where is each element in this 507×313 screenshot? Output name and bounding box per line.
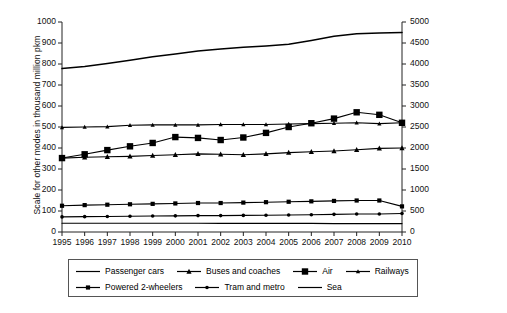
series-line-air xyxy=(62,112,402,158)
series-line-railways xyxy=(62,123,402,128)
series-marker-air xyxy=(376,112,382,118)
series-marker-air xyxy=(59,155,65,161)
series-marker-air xyxy=(263,130,269,136)
y-axis-right-tick: 1500 xyxy=(410,163,442,173)
series-marker-air xyxy=(172,134,178,140)
legend-row-primary: Passenger carsBuses and coachesAirRailwa… xyxy=(75,263,411,279)
legend-key-icon xyxy=(292,267,318,276)
series-marker-tram-and-metro xyxy=(219,214,223,218)
series-marker-tram-and-metro xyxy=(83,215,87,219)
series-marker-air xyxy=(127,143,133,149)
series-marker-air xyxy=(195,135,201,141)
chart-figure: Scale for other modes in thousand millio… xyxy=(0,0,507,313)
legend-key-icon xyxy=(75,267,101,276)
series-marker-powered-2-wheelers xyxy=(332,199,336,203)
y-axis-right-tick: 0 xyxy=(410,226,442,236)
legend-key-icon xyxy=(75,283,101,292)
y-axis-right-tick: 2500 xyxy=(410,121,442,131)
series-marker-tram-and-metro xyxy=(128,214,132,218)
series-marker-powered-2-wheelers xyxy=(287,200,291,204)
series-marker-powered-2-wheelers xyxy=(151,202,155,206)
legend-marker xyxy=(302,268,308,274)
legend-label: Air xyxy=(322,266,332,276)
y-axis-right-tick: 2000 xyxy=(410,142,442,152)
series-marker-powered-2-wheelers xyxy=(241,201,245,205)
legend-marker xyxy=(86,285,90,289)
series-marker-powered-2-wheelers xyxy=(309,199,313,203)
series-marker-tram-and-metro xyxy=(355,212,359,216)
chart-legend: Passenger carsBuses and coachesAirRailwa… xyxy=(68,259,418,297)
legend-label: Sea xyxy=(327,282,342,292)
series-marker-powered-2-wheelers xyxy=(264,200,268,204)
series-marker-tram-and-metro xyxy=(332,213,336,217)
series-marker-air xyxy=(240,134,246,140)
series-marker-air xyxy=(104,147,110,153)
legend-label: Tram and metro xyxy=(224,282,284,292)
series-marker-powered-2-wheelers xyxy=(219,201,223,205)
series-marker-tram-and-metro xyxy=(196,214,200,218)
legend-marker xyxy=(206,285,210,289)
series-line-powered-2-wheelers xyxy=(62,201,402,207)
series-marker-tram-and-metro xyxy=(151,214,155,218)
y-axis-right-tick: 1000 xyxy=(410,184,442,194)
legend-key-icon xyxy=(194,283,220,292)
legend-item[interactable]: Passenger cars xyxy=(75,266,164,276)
series-marker-air xyxy=(81,151,87,157)
legend-key-icon xyxy=(345,267,371,276)
legend-item[interactable]: Buses and coaches xyxy=(176,266,280,276)
series-marker-tram-and-metro xyxy=(242,214,246,218)
series-marker-powered-2-wheelers xyxy=(60,204,64,208)
series-marker-tram-and-metro xyxy=(174,214,178,218)
y-axis-right-tick: 4500 xyxy=(410,37,442,47)
legend-item[interactable]: Powered 2-wheelers xyxy=(75,282,182,292)
series-marker-air xyxy=(353,109,359,115)
series-marker-powered-2-wheelers xyxy=(377,198,381,202)
series-marker-air xyxy=(217,137,223,143)
series-marker-tram-and-metro xyxy=(60,215,64,219)
series-line-passenger-cars xyxy=(62,33,402,69)
y-axis-right-tick: 500 xyxy=(410,205,442,215)
series-marker-powered-2-wheelers xyxy=(83,203,87,207)
series-marker-tram-and-metro xyxy=(400,212,404,216)
series-marker-air xyxy=(149,140,155,146)
series-marker-powered-2-wheelers xyxy=(355,198,359,202)
legend-item[interactable]: Railways xyxy=(345,266,409,276)
y-axis-right-tick: 4000 xyxy=(410,58,442,68)
legend-item[interactable]: Tram and metro xyxy=(194,282,284,292)
series-marker-powered-2-wheelers xyxy=(173,201,177,205)
y-axis-right-tick: 3000 xyxy=(410,100,442,110)
series-marker-tram-and-metro xyxy=(106,215,110,219)
legend-item[interactable]: Air xyxy=(292,266,332,276)
series-marker-powered-2-wheelers xyxy=(400,204,404,208)
series-marker-powered-2-wheelers xyxy=(196,201,200,205)
series-marker-air xyxy=(331,115,337,121)
series-marker-tram-and-metro xyxy=(287,213,291,217)
x-axis-tick: 2010 xyxy=(387,237,417,247)
legend-key-icon xyxy=(176,267,202,276)
legend-label: Powered 2-wheelers xyxy=(105,282,182,292)
series-marker-tram-and-metro xyxy=(310,213,314,217)
series-line-tram-and-metro xyxy=(62,214,402,217)
series-marker-tram-and-metro xyxy=(264,213,268,217)
series-marker-powered-2-wheelers xyxy=(128,202,132,206)
series-marker-powered-2-wheelers xyxy=(105,203,109,207)
y-axis-right-tick: 3500 xyxy=(410,79,442,89)
series-marker-tram-and-metro xyxy=(378,212,382,216)
legend-label: Passenger cars xyxy=(105,266,164,276)
legend-label: Railways xyxy=(375,266,409,276)
y-axis-right-tick: 5000 xyxy=(410,16,442,26)
legend-key-icon xyxy=(297,283,323,292)
legend-label: Buses and coaches xyxy=(206,266,280,276)
plot-area xyxy=(62,22,402,232)
legend-row-secondary: Powered 2-wheelersTram and metroSea xyxy=(75,279,411,295)
legend-item[interactable]: Sea xyxy=(297,282,342,292)
